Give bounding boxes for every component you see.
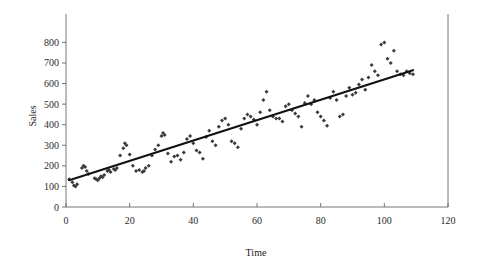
scatter-plot: 0100200300400500600700800 02040608010012…	[0, 0, 480, 270]
x-tick-label: 40	[188, 215, 198, 226]
y-tick-label: 700	[44, 57, 59, 68]
x-tick-label: 0	[64, 215, 69, 226]
chart-figure: 0100200300400500600700800 02040608010012…	[0, 0, 480, 270]
y-tick-label: 300	[44, 140, 59, 151]
chart-background	[0, 0, 480, 270]
y-axis-title: Sales	[27, 105, 38, 126]
y-axis-ticks: 0100200300400500600700800	[44, 37, 66, 213]
y-tick-label: 0	[54, 202, 59, 213]
x-tick-label: 20	[125, 215, 135, 226]
x-tick-label: 60	[252, 215, 262, 226]
y-tick-label: 800	[44, 37, 59, 48]
y-tick-label: 400	[44, 119, 59, 130]
y-tick-label: 100	[44, 181, 59, 192]
x-tick-label: 120	[441, 215, 456, 226]
x-axis-title: Time	[246, 247, 267, 258]
y-tick-label: 500	[44, 99, 59, 110]
x-tick-label: 80	[316, 215, 326, 226]
y-tick-label: 600	[44, 78, 59, 89]
y-tick-label: 200	[44, 160, 59, 171]
x-tick-label: 100	[377, 215, 392, 226]
